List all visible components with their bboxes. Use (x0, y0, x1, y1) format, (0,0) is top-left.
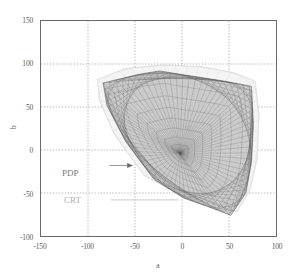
y-tick-label: 100 (0, 59, 33, 68)
x-tick-label: -50 (130, 242, 139, 251)
pdp-annotation-label: PDP (62, 168, 79, 178)
y-tick-label: 50 (0, 102, 33, 111)
pdp-arrow (110, 163, 134, 168)
x-axis-title: a (156, 261, 159, 270)
x-tick-label: 100 (272, 242, 283, 251)
x-tick-label: -150 (34, 242, 47, 251)
x-tick-label: 50 (226, 242, 233, 251)
y-tick-label: -50 (0, 189, 33, 198)
y-tick-label: 150 (0, 16, 33, 25)
gamut-comparison-figure: 150 100 50 0 -50 -100 -150 -100 -50 0 50… (0, 0, 294, 273)
y-axis-title: b (9, 125, 18, 129)
crt-annotation-label: CRT (64, 195, 81, 205)
x-tick-label: -100 (81, 242, 94, 251)
y-tick-label: 0 (0, 146, 33, 155)
y-tick-label: -100 (0, 233, 33, 242)
x-tick-label: 0 (180, 242, 184, 251)
